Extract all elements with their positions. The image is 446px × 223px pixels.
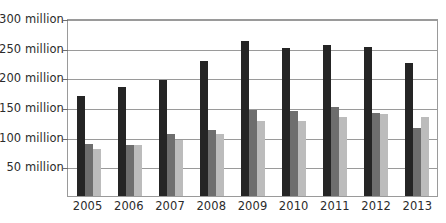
x-axis-tick-label: 2010 (279, 199, 309, 213)
bar-series-1-dark-2012 (364, 47, 372, 196)
x-axis-tick-label: 2008 (196, 199, 226, 213)
bar-chart: 50 million100 million150 million200 mill… (0, 0, 446, 223)
x-axis-tick-label: 2009 (238, 199, 268, 213)
y-axis-tick-label: 100 million (0, 131, 64, 145)
y-axis-tick-label: 300 million (0, 12, 64, 26)
bar-group (364, 20, 388, 196)
x-axis-tick-label: 2012 (361, 199, 391, 213)
plot-area (67, 19, 438, 197)
bar-series-3-light-2006 (134, 145, 142, 196)
bar-series-1-dark-2013 (405, 63, 413, 197)
bar-series-1-dark-2009 (241, 41, 249, 196)
y-axis-tick-label: 250 million (0, 42, 64, 56)
bar-series-2-medium-2013 (413, 128, 421, 196)
bar-series-2-medium-2012 (372, 113, 380, 196)
x-axis-tick-label: 2013 (403, 199, 433, 213)
bar-series-1-dark-2011 (323, 45, 331, 196)
bar-series-2-medium-2008 (208, 130, 216, 196)
bar-series-2-medium-2006 (126, 145, 134, 196)
x-axis-tick-label: 2006 (114, 199, 144, 213)
bar-series-2-medium-2009 (249, 110, 257, 196)
bar-series-2-medium-2007 (167, 134, 175, 196)
bar-series-3-light-2008 (216, 134, 224, 196)
bar-series-1-dark-2008 (200, 61, 208, 196)
bar-series-3-light-2009 (257, 121, 265, 196)
bar-group (323, 20, 347, 196)
bar-series-3-light-2010 (298, 121, 306, 196)
x-axis: 200520062007200820092010201120122013 (67, 199, 438, 223)
bar-group (77, 20, 101, 196)
bar-group (241, 20, 265, 196)
bar-group (282, 20, 306, 196)
x-axis-tick-label: 2011 (320, 199, 350, 213)
bar-series-1-dark-2006 (118, 87, 126, 196)
bar-series-2-medium-2010 (290, 111, 298, 196)
y-axis-tick-label: 200 million (0, 71, 64, 85)
bar-group (159, 20, 183, 196)
x-axis-tick-label: 2005 (73, 199, 103, 213)
bar-group (405, 20, 429, 196)
bar-group (200, 20, 224, 196)
bar-series-1-dark-2010 (282, 48, 290, 196)
bar-series-1-dark-2005 (77, 96, 85, 196)
bar-group (118, 20, 142, 196)
y-axis: 50 million100 million150 million200 mill… (0, 0, 64, 223)
bar-series-3-light-2005 (93, 149, 101, 196)
x-axis-tick-label: 2007 (155, 199, 185, 213)
bar-groups (68, 20, 437, 196)
bar-series-3-light-2007 (175, 140, 183, 196)
bar-series-3-light-2013 (421, 117, 429, 196)
bar-series-1-dark-2007 (159, 80, 167, 196)
bar-series-3-light-2011 (339, 117, 347, 196)
bar-series-2-medium-2005 (85, 144, 93, 196)
y-axis-tick-label: 150 million (0, 101, 64, 115)
y-axis-tick-label: 50 million (6, 160, 64, 174)
bar-series-2-medium-2011 (331, 107, 339, 196)
bar-series-3-light-2012 (380, 114, 388, 196)
